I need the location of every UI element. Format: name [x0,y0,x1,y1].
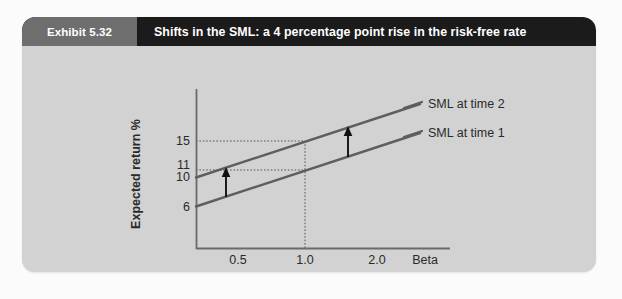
sml-line-time-2 [196,104,420,178]
x-axis-end-label: Beta [412,253,438,267]
x-tick-label-1-0: 1.0 [296,253,313,267]
exhibit-number-block: Exhibit 5.32 [22,17,137,46]
sml-line-time-1 [196,133,420,207]
shift-arrow-left-icon [222,167,231,197]
exhibit-number-label: Exhibit 5.32 [47,26,112,38]
sml-line-chart: 15 11 10 6 0.5 1.0 2.0 Beta SML at time … [22,46,596,272]
exhibit-header: Exhibit 5.32 Shifts in the SML: a 4 perc… [22,17,596,46]
chart-plot-area: 15 11 10 6 0.5 1.0 2.0 Beta SML at time … [22,46,596,272]
y-tick-label-15: 15 [176,134,190,148]
exhibit-card: Exhibit 5.32 Shifts in the SML: a 4 perc… [22,17,596,272]
x-tick-label-2-0: 2.0 [368,253,385,267]
shift-arrow-right-icon [344,126,353,157]
y-tick-label-10: 10 [176,170,190,184]
y-axis-title: Expected return % [129,119,143,229]
exhibit-title: Shifts in the SML: a 4 percentage point … [154,25,526,39]
series-label-sml-time-1: SML at time 1 [428,126,505,140]
y-tick-label-6: 6 [183,200,190,214]
series-label-sml-time-2: SML at time 2 [428,97,505,111]
x-tick-label-0-5: 0.5 [229,253,246,267]
exhibit-title-block: Shifts in the SML: a 4 percentage point … [137,17,596,46]
